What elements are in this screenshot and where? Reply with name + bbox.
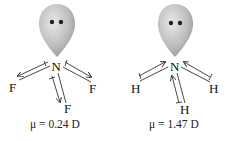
electron-dot <box>178 21 182 25</box>
substituent-atom-right: F <box>89 81 96 96</box>
bond-dipole-arrow-bottom <box>52 76 60 102</box>
electron-dot <box>50 20 54 24</box>
substituent-atom-bottom: F <box>64 101 71 116</box>
nh3-molecule: N H H H μ = 1.47 D <box>131 4 218 131</box>
bond-dipole-arrow-right <box>184 62 210 77</box>
central-atom-n: N <box>52 59 62 74</box>
bond-left <box>140 67 168 81</box>
lone-pair-orbital <box>158 4 193 57</box>
nf3-molecule: N F F F μ = 0.24 D <box>9 4 96 131</box>
lone-pair-orbital <box>39 4 75 57</box>
bond-dipole-arrow-bottom <box>172 76 179 103</box>
substituent-atom-bottom: H <box>180 102 189 117</box>
electron-dot <box>59 20 63 24</box>
electron-dot <box>169 21 173 25</box>
substituent-atom-right: H <box>209 81 218 96</box>
central-atom-n: N <box>170 59 180 74</box>
substituent-atom-left: F <box>9 80 16 95</box>
dipole-moment-label: μ = 1.47 D <box>149 118 199 131</box>
substituent-atom-left: H <box>131 81 140 96</box>
dipole-moment-label: μ = 0.24 D <box>30 118 80 131</box>
bond-dipole-arrow-left <box>139 62 165 76</box>
